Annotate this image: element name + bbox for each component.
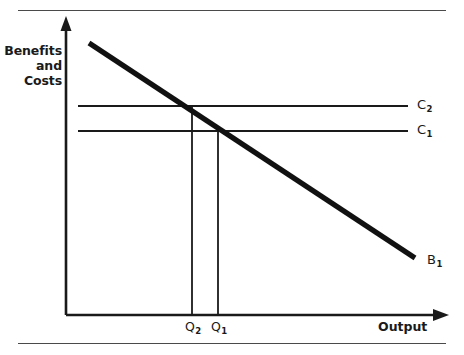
benefit-curve-b1 (89, 43, 415, 258)
economics-diagram: Benefits and Costs Output C2 C1 B1 Q2 Q1 (0, 0, 464, 355)
x-axis-arrowhead-icon (433, 309, 449, 321)
cost-line-c2-label: C2 (417, 97, 432, 112)
benefit-curve-b1-label-text: B (427, 252, 436, 267)
y-axis-label: Benefits and Costs (4, 44, 62, 88)
quantity-q1-label: Q1 (211, 320, 227, 335)
y-axis-arrowhead-icon (61, 16, 72, 31)
plot-canvas (0, 0, 464, 355)
x-axis-label: Output (378, 320, 427, 335)
cost-line-c2-label-text: C (417, 97, 426, 112)
quantity-q2-label: Q2 (185, 320, 201, 335)
quantity-q1-label-text: Q (211, 319, 221, 334)
quantity-q2-label-subscript: 2 (195, 326, 201, 336)
cost-line-c2-label-subscript: 2 (427, 104, 433, 114)
cost-line-c1-label: C1 (417, 122, 432, 137)
cost-line-c1-label-text: C (417, 122, 426, 137)
y-axis-label-line-1: Benefits (4, 44, 62, 59)
benefit-curve-b1-label-subscript: 1 (436, 259, 442, 269)
cost-line-c1-label-subscript: 1 (427, 129, 433, 139)
benefit-curve-b1-label: B1 (427, 252, 442, 267)
y-axis-label-line-2: and (4, 59, 62, 74)
quantity-q1-label-subscript: 1 (221, 326, 227, 336)
y-axis-label-line-3: Costs (4, 74, 62, 89)
quantity-q2-label-text: Q (185, 319, 195, 334)
